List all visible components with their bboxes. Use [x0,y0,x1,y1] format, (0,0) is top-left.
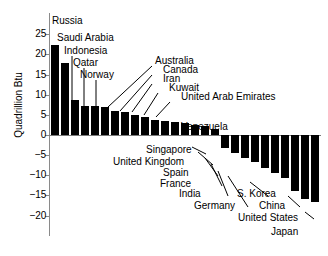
label-norway: Norway [80,70,114,80]
label-united-kingdom: United Kingdom [113,157,184,167]
label-india: India [179,189,201,199]
leader-us [305,212,314,219]
leader-india [218,171,228,196]
label-s-korea: S. Korea [237,189,276,199]
leader-kuwait [144,93,158,115]
label-saudi-arabia: Saudi Arabia [57,33,114,43]
label-qatar: Qatar [73,58,98,68]
label-spain: Spain [163,168,189,178]
label-united-states: United States [238,213,298,223]
leader-uae [156,102,170,117]
leader-australia [108,66,152,107]
leader-china [288,196,300,207]
label-russia: Russia [52,16,83,26]
label-venezuela: Venezuela [181,122,228,132]
leader-france [211,164,222,186]
label-japan: Japan [271,227,298,237]
label-uae: United Arab Emirates [181,92,276,102]
label-singapore: Singapore [146,145,192,155]
label-germany: Germany [194,201,235,211]
label-indonesia: Indonesia [64,46,107,56]
net-energy-exports-bar-chart: Quadrillion Btu 2520151050−5−10−15−20 Ru… [0,0,328,256]
label-china: China [259,201,285,211]
